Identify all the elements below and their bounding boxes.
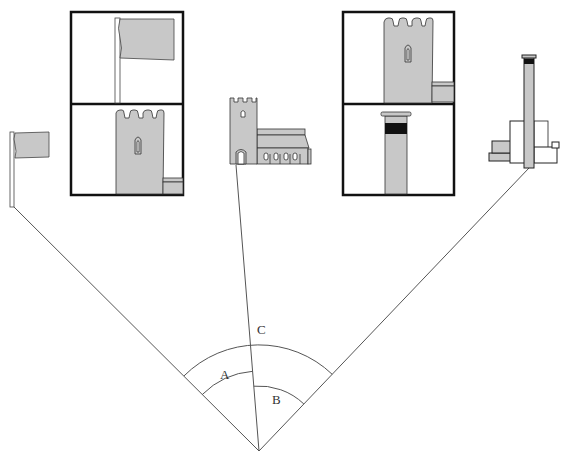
inset-right (343, 12, 454, 195)
sight-line-church (236, 165, 259, 451)
angle-diagram: A B C (0, 0, 572, 464)
church-landmark (230, 98, 311, 164)
sight-line-chimney (259, 168, 529, 451)
angle-label-a: A (220, 367, 230, 382)
chimney-landmark (489, 55, 559, 168)
angle-label-b: B (272, 392, 281, 407)
inset-right-chimney (381, 112, 411, 194)
inset-left (71, 12, 183, 195)
sight-lines (13, 165, 529, 451)
angle-label-c: C (257, 322, 266, 337)
angle-arcs (184, 345, 332, 404)
sight-line-flag (13, 206, 259, 451)
flag-landmark (10, 132, 49, 207)
arc-c (184, 345, 332, 376)
